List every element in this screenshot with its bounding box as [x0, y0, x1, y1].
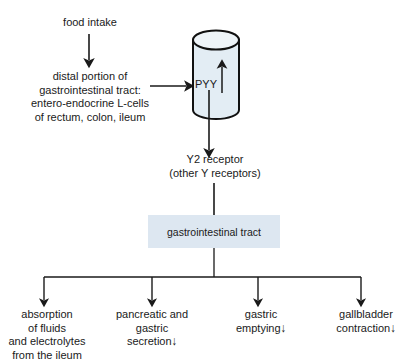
gallbladder-line-1: gallbladder	[318, 308, 414, 322]
food-intake-text: food intake	[30, 16, 150, 30]
pancreatic-line-3: secretion	[127, 335, 172, 347]
decrease-arrow-icon-pancreatic: ↓	[172, 334, 178, 350]
pyy-cylinder-shape	[193, 31, 239, 120]
distal-source-line-1: distal portion of	[10, 70, 170, 84]
absorption-line-2: of fluids	[2, 322, 92, 336]
node-label-y2-receptor: Y2 receptor (other Y receptors)	[150, 153, 280, 180]
distal-source-line-4: of rectum, colon, ileum	[10, 111, 170, 125]
effect-label-gallbladder-contraction: gallbladder contraction↓	[318, 308, 414, 335]
y2-receptor-line-1: Y2 receptor	[150, 153, 280, 167]
gastric-emptying-line-2-row: emptying↓	[222, 322, 300, 336]
pancreatic-line-1: pancreatic and	[98, 308, 206, 322]
absorption-line-3: and electrolytes	[2, 335, 92, 349]
flowchart-diagram: food intake distal portion of gastrointe…	[0, 0, 415, 364]
effect-label-gastric-emptying: gastric emptying↓	[222, 308, 300, 335]
absorption-line-4: from the ileum	[2, 349, 92, 363]
effect-label-pancreatic-gastric-secretion: pancreatic and gastric secretion↓	[98, 308, 206, 349]
effect-label-absorption: absorption of fluids and electrolytes fr…	[2, 308, 92, 362]
pancreatic-line-2: gastric	[98, 322, 206, 336]
gallbladder-line-2-row: contraction↓	[318, 322, 414, 336]
decrease-arrow-icon-gastric-emptying: ↓	[281, 320, 287, 336]
gastric-emptying-line-2: emptying	[236, 322, 281, 334]
gi-tract-box-text: gastrointestinal tract	[167, 226, 261, 238]
node-label-food-intake: food intake	[30, 16, 150, 30]
pyy-text: PYY	[186, 78, 226, 92]
gallbladder-line-2: contraction	[336, 322, 390, 334]
distal-source-line-2: gastrointestinal tract:	[10, 84, 170, 98]
distal-source-line-3: entero-endocrine L-cells	[10, 97, 170, 111]
y2-receptor-line-2: (other Y receptors)	[150, 167, 280, 181]
node-box-gastrointestinal-tract: gastrointestinal tract	[148, 215, 280, 248]
pancreatic-line-3-row: secretion↓	[98, 335, 206, 349]
gastric-emptying-line-1: gastric	[222, 308, 300, 322]
absorption-line-1: absorption	[2, 308, 92, 322]
node-label-distal-source: distal portion of gastrointestinal tract…	[10, 70, 170, 124]
decrease-arrow-icon-gallbladder: ↓	[390, 320, 396, 336]
node-label-pyy: PYY	[186, 78, 226, 92]
